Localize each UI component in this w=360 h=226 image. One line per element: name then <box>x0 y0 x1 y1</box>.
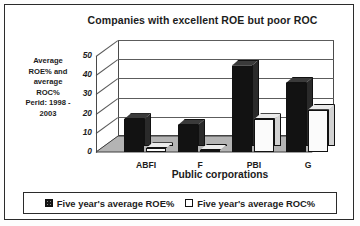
plot-area: 01020304050 ABFIFPBIG <box>96 40 344 152</box>
legend-label: Five year's average ROC% <box>197 198 315 209</box>
y-tick-30: 30 <box>72 88 92 98</box>
bar-PBI-roc <box>254 119 274 152</box>
depth-connector <box>96 98 119 115</box>
legend-item-roc[interactable]: Five year's average ROC% <box>185 198 315 209</box>
bar-face <box>254 119 274 152</box>
legend-swatch-roc-icon <box>185 199 193 207</box>
legend-swatch-roe-icon <box>45 199 53 207</box>
bar-face <box>286 83 306 152</box>
gridline <box>118 40 334 41</box>
bar-face <box>308 110 328 152</box>
legend-item-roe[interactable]: Five year's average ROE% <box>45 198 174 209</box>
y-tick-20: 20 <box>72 108 92 118</box>
depth-connector <box>96 117 119 134</box>
bar-PBI-roe <box>232 66 252 152</box>
y-tick-10: 10 <box>72 127 92 137</box>
y-tick-40: 40 <box>72 69 92 79</box>
y-tick-50: 50 <box>72 50 92 60</box>
y-tick-0: 0 <box>72 146 92 156</box>
depth-connector <box>96 78 119 95</box>
bar-face <box>232 66 252 152</box>
chart-legend: Five year's average ROE%Five year's aver… <box>23 192 337 214</box>
depth-connector <box>96 40 119 57</box>
bar-F-roe <box>178 125 198 152</box>
gridline <box>118 59 334 60</box>
bar-G-roc <box>308 110 328 152</box>
bar-face <box>200 150 220 152</box>
chart-image: Companies with excellent ROE but poor RO… <box>0 0 360 226</box>
bar-face <box>124 119 144 152</box>
depth-connector <box>96 59 119 76</box>
x-axis-title: Public corporations <box>96 168 344 182</box>
bar-face <box>178 125 198 152</box>
bar-F-roc <box>200 150 220 152</box>
chart-title: Companies with excellent ROE but poor RO… <box>60 12 345 28</box>
legend-label: Five year's average ROE% <box>57 198 174 209</box>
bar-ABFI-roc <box>146 148 166 152</box>
bar-ABFI-roe <box>124 119 144 152</box>
bar-G-roe <box>286 83 306 152</box>
bar-face <box>146 148 166 152</box>
bar-side <box>328 104 335 146</box>
